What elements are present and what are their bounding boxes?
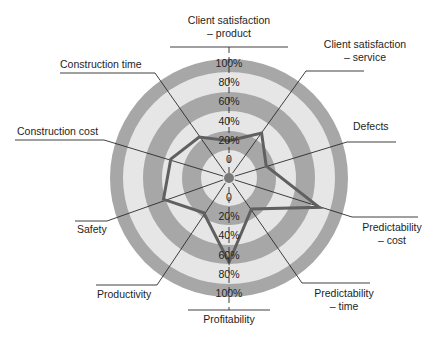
svg-text:100%: 100% — [216, 57, 243, 69]
svg-text:60%: 60% — [218, 95, 239, 107]
svg-text:20%: 20% — [218, 210, 239, 222]
svg-text:40%: 40% — [218, 229, 239, 241]
label-client-satisfaction-product: Client satisfaction – product — [170, 14, 288, 40]
center-dot — [224, 173, 234, 183]
label-profitability: Profitability — [188, 313, 270, 326]
label-productivity: Productivity — [97, 288, 151, 301]
svg-text:80%: 80% — [218, 268, 239, 280]
svg-text:80%: 80% — [218, 76, 239, 88]
svg-text:40%: 40% — [218, 115, 239, 127]
svg-text:20%: 20% — [218, 134, 239, 146]
label-construction-cost: Construction cost — [17, 125, 98, 138]
label-construction-time: Construction time — [60, 58, 142, 71]
label-predictability-cost: Predictability – cost — [352, 221, 430, 247]
label-safety: Safety — [77, 223, 107, 236]
svg-text:100%: 100% — [216, 287, 243, 299]
label-defects: Defects — [353, 120, 389, 133]
svg-text:0: 0 — [226, 153, 232, 165]
label-client-satisfaction-service: Client satisfaction – service — [306, 38, 424, 64]
svg-text:0: 0 — [226, 191, 232, 203]
label-predictability-time: Predictability – time — [304, 287, 384, 313]
svg-text:60%: 60% — [218, 249, 239, 261]
